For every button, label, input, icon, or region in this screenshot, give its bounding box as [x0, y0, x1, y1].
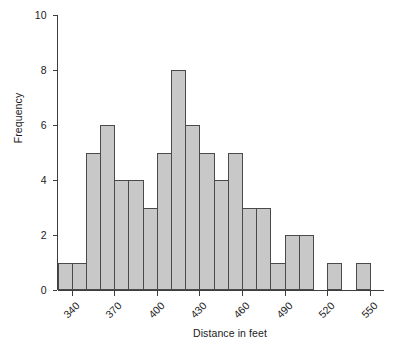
- histogram-bar: [242, 208, 257, 291]
- x-axis-tick: [327, 291, 328, 296]
- x-axis-tick-label: 430: [182, 300, 209, 327]
- y-axis-tick: [53, 70, 57, 71]
- histogram-figure: Frequency Distance in feet 0246810340370…: [0, 0, 403, 352]
- x-axis-title: Distance in feet: [60, 327, 400, 339]
- histogram-bar: [185, 125, 200, 290]
- x-axis-tick-label: 400: [139, 300, 166, 327]
- y-axis-tick: [53, 15, 57, 16]
- y-axis-tick: [53, 180, 57, 181]
- y-axis-line: [57, 15, 58, 290]
- histogram-bar: [100, 125, 115, 290]
- x-axis-tick: [114, 291, 115, 296]
- y-axis-tick: [53, 290, 57, 291]
- x-axis-tick: [285, 291, 286, 296]
- x-axis-tick: [199, 291, 200, 296]
- y-axis-tick: [53, 125, 57, 126]
- x-axis-tick: [242, 291, 243, 296]
- x-axis-tick-label: 490: [267, 300, 294, 327]
- histogram-bar: [199, 153, 214, 291]
- histogram-bar: [256, 208, 271, 291]
- histogram-bar: [228, 153, 243, 291]
- x-axis-tick-label: 520: [309, 300, 336, 327]
- y-axis-tick-label: 10: [25, 10, 47, 21]
- y-axis-tick-label: 0: [25, 285, 47, 296]
- histogram-bar: [270, 263, 285, 291]
- histogram-bar: [157, 153, 172, 291]
- x-axis-tick: [72, 291, 73, 296]
- histogram-bar: [327, 263, 342, 291]
- histogram-bar: [214, 180, 229, 290]
- histogram-bar: [128, 180, 143, 290]
- histogram-bar: [86, 153, 101, 291]
- x-axis-line: [58, 290, 385, 291]
- x-axis-tick-label: 340: [54, 300, 81, 327]
- x-axis-tick: [157, 291, 158, 296]
- x-axis-tick: [370, 291, 371, 296]
- histogram-bar: [299, 235, 314, 290]
- y-axis-tick-label: 4: [25, 175, 47, 186]
- x-axis-tick-label: 460: [224, 300, 251, 327]
- y-axis-title: Frequency: [12, 68, 24, 168]
- histogram-bar: [356, 263, 371, 291]
- x-axis-tick-label: 370: [96, 300, 123, 327]
- histogram-bar: [171, 70, 186, 290]
- histogram-bar: [58, 263, 73, 291]
- y-axis-tick-label: 6: [25, 120, 47, 131]
- y-axis-tick: [53, 235, 57, 236]
- y-axis-tick-label: 8: [25, 65, 47, 76]
- histogram-bar: [114, 180, 129, 290]
- x-axis-tick-label: 550: [352, 300, 379, 327]
- histogram-bar: [72, 263, 87, 291]
- histogram-bar: [143, 208, 158, 291]
- histogram-bar: [285, 235, 300, 290]
- y-axis-tick-label: 2: [25, 230, 47, 241]
